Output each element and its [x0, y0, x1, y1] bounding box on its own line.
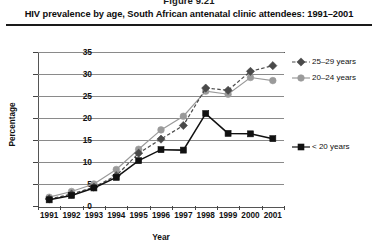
square-marker-icon — [298, 144, 304, 150]
square-marker-icon — [225, 130, 231, 136]
circle-marker-icon — [298, 75, 305, 82]
circle-marker-icon — [270, 77, 277, 84]
legend-swatch — [292, 142, 310, 152]
square-marker-icon — [113, 174, 119, 180]
diamond-marker-icon — [297, 58, 305, 66]
square-marker-icon — [247, 131, 253, 137]
circle-marker-icon — [180, 113, 187, 120]
square-marker-icon — [136, 158, 142, 164]
legend-item-label: 20–24 years — [312, 73, 356, 82]
data-series-layer — [0, 0, 378, 248]
square-marker-icon — [46, 197, 52, 203]
figure-container: Figure 9.21 HIV prevalence by age, South… — [0, 0, 378, 248]
diamond-marker-icon — [157, 135, 165, 143]
diamond-marker-icon — [179, 121, 187, 129]
square-marker-icon — [270, 136, 276, 142]
square-marker-icon — [69, 192, 75, 198]
square-marker-icon — [158, 147, 164, 153]
legend-item-label: 25–29 years — [312, 57, 356, 66]
legend-swatch — [292, 73, 310, 83]
square-marker-icon — [203, 111, 209, 117]
square-marker-icon — [91, 185, 97, 191]
square-marker-icon — [180, 147, 186, 153]
circle-marker-icon — [158, 127, 165, 134]
diamond-marker-icon — [269, 62, 277, 70]
legend-item-label: < 20 years — [312, 142, 350, 151]
legend-swatch — [292, 57, 310, 67]
